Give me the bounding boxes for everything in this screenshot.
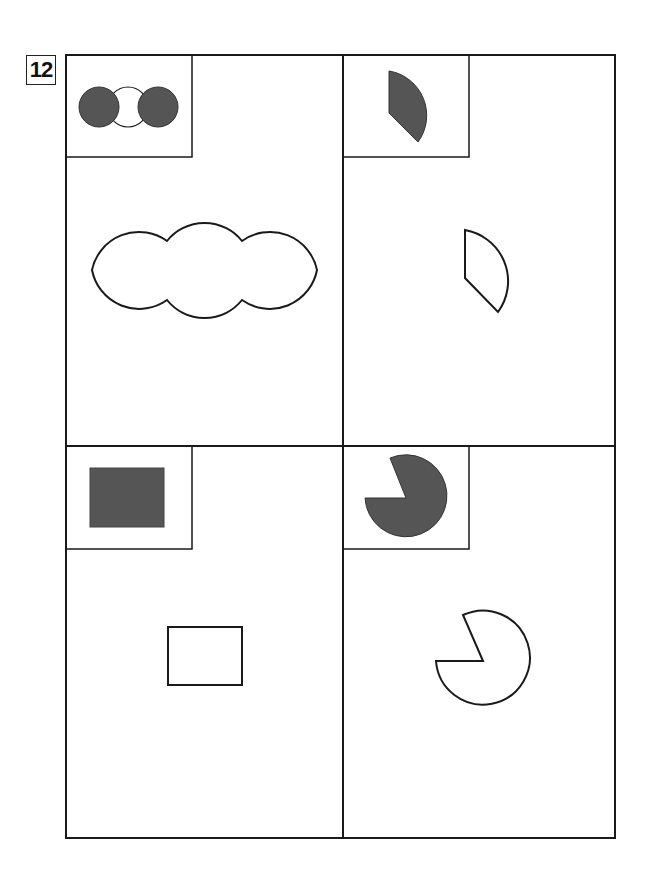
example-sector-icon [389, 71, 427, 142]
worksheet [0, 0, 651, 894]
panel-top-left [66, 55, 317, 318]
example-pacman-icon [365, 455, 447, 537]
example-rectangle-icon [90, 468, 164, 527]
target-three-circles-outline [92, 223, 317, 318]
target-rectangle-outline [168, 627, 242, 685]
panel-bottom-right [343, 446, 530, 705]
panel-bottom-left [66, 446, 242, 685]
panel-top-right [343, 55, 508, 312]
target-sector-outline [465, 230, 508, 312]
example-circles-icon [79, 87, 178, 127]
target-pacman-outline [436, 611, 530, 705]
